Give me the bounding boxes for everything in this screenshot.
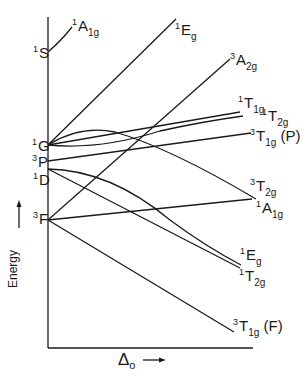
state-label-3T2g: 3T2g	[250, 178, 276, 193]
state-label-3A2g: 3A2g	[230, 52, 257, 67]
state-label-3T1g-F: 3T1g (F)	[233, 318, 283, 333]
state-label-1A1g-top: 1A1g	[72, 18, 99, 33]
state-label-1T2g-top: 1T2g	[262, 108, 288, 123]
x-axis-label: Δo	[118, 350, 135, 370]
state-label-1Eg-top: 1Eg	[175, 22, 197, 37]
line-1T2g-from-1D	[48, 169, 240, 268]
delta-arrow-head-icon	[159, 358, 166, 363]
state-label-1T2g-low: 1T2g	[239, 268, 265, 283]
term-label-1S: 1S	[33, 45, 49, 60]
line-1A1g-from-1S	[48, 27, 72, 52]
energy-arrow-head-icon	[17, 200, 22, 207]
state-label-1A1g-mid: 1A1g	[256, 200, 283, 215]
state-label-1T1g: 1T1g	[238, 95, 264, 110]
state-label-3T1g-P: 3T1g (P)	[250, 128, 300, 143]
line-3T2g	[48, 199, 252, 220]
term-label-3F: 3F	[33, 211, 48, 226]
state-label-1Eg-low: 1Eg	[240, 247, 262, 262]
y-axis-label: Energy	[6, 250, 20, 288]
line-3T1g-P	[48, 133, 251, 161]
line-1T2g-from-1G	[48, 116, 243, 146]
line-1A1g-from-1G	[48, 130, 256, 199]
line-3T1g-F	[48, 220, 234, 332]
term-label-1D: 1D	[33, 172, 50, 187]
term-label-3P: 3P	[32, 154, 48, 169]
term-label-1G: 1G	[32, 138, 50, 153]
